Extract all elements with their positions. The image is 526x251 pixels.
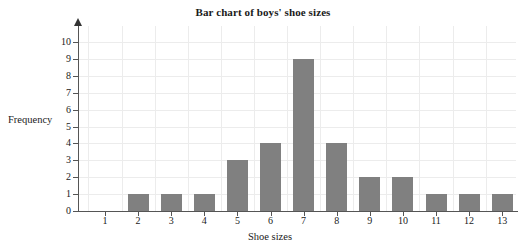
y-tick-label: 2 <box>49 172 71 182</box>
x-axis-line <box>78 211 518 212</box>
bar <box>227 160 248 211</box>
bar <box>326 143 347 211</box>
x-tick-label: 5 <box>225 216 249 226</box>
bar <box>293 59 314 211</box>
y-tick-label: 4 <box>49 138 71 148</box>
y-tick-label: 8 <box>49 71 71 81</box>
x-tick-label: 10 <box>391 216 415 226</box>
y-tick-label: 7 <box>49 88 71 98</box>
x-tick-label: 13 <box>490 216 514 226</box>
bars-layer <box>78 26 516 211</box>
bar <box>128 194 149 211</box>
x-tick-label: 2 <box>126 216 150 226</box>
bar <box>459 194 480 211</box>
bar <box>426 194 447 211</box>
y-tick-label: 9 <box>49 54 71 64</box>
chart-title: Bar chart of boys' shoe sizes <box>0 6 526 18</box>
bar <box>194 194 215 211</box>
x-tick-label: 8 <box>325 216 349 226</box>
bar <box>392 177 413 211</box>
y-tick-label: 3 <box>49 155 71 165</box>
x-tick-label: 4 <box>192 216 216 226</box>
y-axis-arrow-icon <box>74 18 82 26</box>
y-axis-title: Frequency <box>8 114 70 125</box>
x-tick-label: 9 <box>358 216 382 226</box>
x-tick-label: 1 <box>93 216 117 226</box>
x-tick-label: 3 <box>159 216 183 226</box>
x-tick-label: 11 <box>424 216 448 226</box>
y-tick-mark <box>73 211 79 212</box>
x-tick-label: 6 <box>259 216 283 226</box>
bar <box>161 194 182 211</box>
x-tick-label: 7 <box>292 216 316 226</box>
bar-chart: Bar chart of boys' shoe sizes 0123456789… <box>0 0 526 251</box>
y-tick-label: 10 <box>49 37 71 47</box>
y-tick-label: 1 <box>49 189 71 199</box>
y-tick-label: 0 <box>49 206 71 216</box>
bar <box>492 194 513 211</box>
x-axis-title: Shoe sizes <box>0 231 526 242</box>
bar <box>359 177 380 211</box>
bar <box>260 143 281 211</box>
x-tick-label: 12 <box>457 216 481 226</box>
